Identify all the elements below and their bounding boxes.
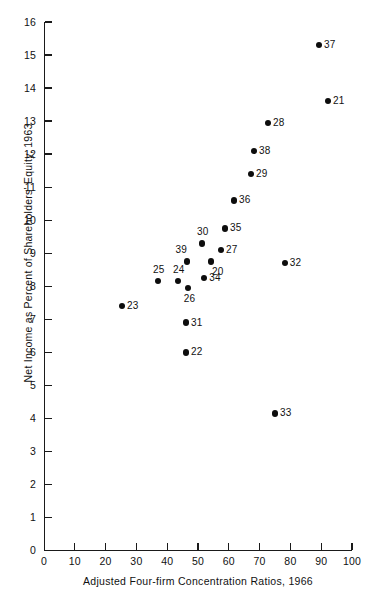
data-point-marker [282,260,288,266]
y-tick-2 [45,484,52,485]
data-point-marker [208,258,214,264]
data-point-marker [316,42,322,48]
scatter-plot: 012345678910111213141516 010203040506070… [0,0,376,597]
y-tick-4 [45,418,52,419]
data-point-marker [231,197,237,203]
data-point-label: 36 [239,195,251,205]
y-tick-label-16: 16 [10,17,36,28]
y-tick-label-15: 15 [10,50,36,61]
x-tick-70 [259,543,260,550]
y-tick-9 [45,253,52,254]
x-tick-20 [105,543,106,550]
x-tick-label-20: 20 [91,556,121,567]
x-axis-title: Adjusted Four-firm Concentration Ratios,… [44,576,352,587]
y-tick-13 [45,120,52,121]
x-tick-100 [351,543,352,550]
data-point-label: 33 [280,408,292,418]
data-point-marker [119,303,125,309]
data-point-marker [155,278,161,284]
x-tick-30 [136,543,137,550]
y-tick-label-14: 14 [10,83,36,94]
y-tick-16 [45,21,52,22]
x-tick-60 [228,543,229,550]
y-tick-8 [45,286,52,287]
x-axis-line [44,550,352,551]
x-tick-10 [74,543,75,550]
y-tick-label-4: 4 [10,413,36,424]
data-point-label: 39 [175,245,187,255]
data-point-marker [183,319,189,325]
y-tick-10 [45,220,52,221]
x-tick-label-100: 100 [337,556,367,567]
data-point-marker [265,120,271,126]
data-point-label: 22 [191,347,203,357]
data-point-marker [218,247,224,253]
y-tick-label-3: 3 [10,446,36,457]
y-tick-12 [45,153,52,154]
data-point-label: 21 [333,96,345,106]
y-tick-5 [45,385,52,386]
x-tick-90 [321,543,322,550]
x-tick-50 [197,543,198,550]
data-point-marker [222,225,228,231]
x-tick-40 [167,543,168,550]
data-point-label: 25 [153,265,165,275]
data-point-marker [272,410,278,416]
x-tick-label-90: 90 [306,556,336,567]
data-point-label: 32 [290,258,302,268]
y-tick-7 [45,319,52,320]
x-tick-label-0: 0 [29,556,59,567]
data-point-marker [201,275,207,281]
y-tick-6 [45,352,52,353]
y-tick-label-0: 0 [10,545,36,556]
x-tick-80 [290,543,291,550]
data-point-label: 34 [209,273,221,283]
x-tick-label-70: 70 [245,556,275,567]
y-axis-title: Net Income as Percent of Shareholders' E… [23,153,34,383]
y-tick-11 [45,187,52,188]
data-point-label: 37 [324,40,336,50]
data-point-label: 23 [127,301,139,311]
data-point-marker [325,98,331,104]
y-tick-3 [45,451,52,452]
data-point-label: 28 [273,118,285,128]
data-point-label: 35 [230,223,242,233]
y-tick-14 [45,87,52,88]
data-point-marker [175,278,181,284]
data-point-marker [199,240,205,246]
y-tick-label-1: 1 [10,512,36,523]
y-tick-0 [45,550,52,551]
data-point-marker [185,285,191,291]
data-point-label: 38 [259,146,271,156]
data-point-label: 27 [226,245,238,255]
x-tick-label-10: 10 [60,556,90,567]
y-tick-label-2: 2 [10,479,36,490]
y-tick-15 [45,54,52,55]
data-point-label: 31 [191,318,203,328]
x-tick-label-60: 60 [214,556,244,567]
data-point-marker [183,349,189,355]
data-point-label: 24 [173,265,185,275]
data-point-label: 29 [256,169,268,179]
data-point-label: 30 [197,227,209,237]
data-point-marker [248,171,254,177]
x-tick-label-30: 30 [121,556,151,567]
x-tick-label-40: 40 [152,556,182,567]
x-tick-label-50: 50 [183,556,213,567]
x-tick-label-80: 80 [275,556,305,567]
data-point-marker [251,148,257,154]
y-tick-1 [45,517,52,518]
data-point-label: 26 [184,294,196,304]
